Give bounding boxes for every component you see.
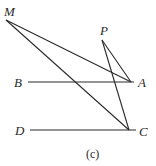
- label-p: P: [99, 23, 108, 38]
- segment-pc: [102, 40, 129, 130]
- segment-pa: [102, 40, 131, 82]
- label-d: D: [14, 123, 25, 138]
- label-c: C: [139, 124, 148, 139]
- label-a: A: [137, 75, 146, 90]
- geometry-diagram: M P A B C D (c): [0, 0, 156, 166]
- caption: (c): [86, 147, 99, 161]
- segment-mc: [6, 20, 129, 130]
- label-b: B: [14, 75, 22, 90]
- label-m: M: [3, 4, 16, 19]
